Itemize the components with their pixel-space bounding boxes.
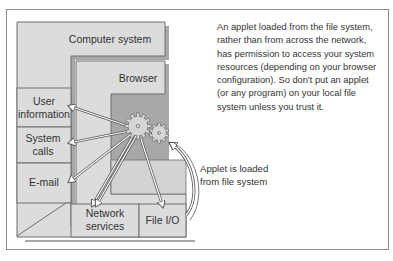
- annotation-text: An applet loaded from the file system, r…: [217, 21, 377, 114]
- browser-label: Browser: [110, 72, 166, 85]
- file-io-label: File I/O: [139, 214, 186, 227]
- user-information-label: User information: [17, 95, 71, 121]
- email-label: E-mail: [17, 176, 71, 189]
- applet-loaded-caption: Applet is loaded from file system: [200, 162, 290, 189]
- system-calls-label: System calls: [20, 132, 66, 158]
- applet-gear-small: [149, 123, 169, 143]
- network-services-label: Network services: [73, 207, 137, 233]
- computer-system-label: Computer system: [60, 33, 160, 46]
